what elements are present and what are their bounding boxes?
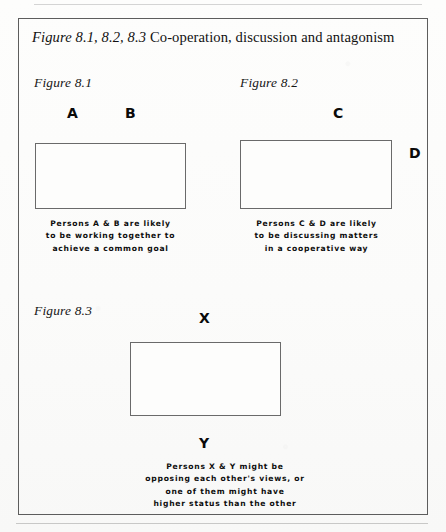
person-label-b: B [125, 105, 136, 121]
panel-label-figure-8-1: Figure 8.1 [34, 75, 92, 91]
person-label-c: C [333, 105, 344, 121]
person-label-d: D [409, 145, 421, 161]
person-label-a: A [67, 105, 78, 121]
figure-title-numbers: Figure 8.1, 8.2, 8.3 [32, 29, 146, 45]
figure-page: Figure 8.1, 8.2, 8.3 Co-operation, discu… [0, 0, 446, 532]
panel-caption-figure-8-1: Persons A & B are likely to be working t… [30, 218, 191, 255]
person-label-y: Y [199, 435, 209, 451]
diagram-box-figure-8-1 [35, 143, 186, 209]
figure-frame-border [18, 18, 428, 515]
panel-label-figure-8-3: Figure 8.3 [34, 303, 92, 319]
page-bottom-rule [16, 523, 428, 524]
figure-title-text: Co-operation, discussion and antagonism [146, 29, 394, 45]
figure-title: Figure 8.1, 8.2, 8.3 Co-operation, discu… [32, 28, 422, 46]
panel-label-figure-8-2: Figure 8.2 [240, 75, 298, 91]
diagram-box-figure-8-2 [240, 140, 392, 209]
person-label-x: X [199, 310, 210, 326]
panel-caption-figure-8-2: Persons C & D are likely to be discussin… [236, 218, 397, 255]
diagram-box-figure-8-3 [130, 342, 281, 416]
page-top-rule [34, 4, 422, 5]
panel-caption-figure-8-3: Persons X & Y might be opposing each oth… [125, 461, 325, 510]
